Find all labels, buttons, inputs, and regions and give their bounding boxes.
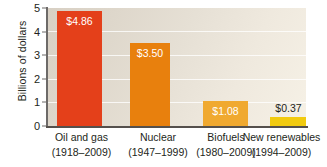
x-label-new-renewables: New renewables (1994–2009) xyxy=(236,130,327,160)
x-axis-line xyxy=(46,126,308,128)
x-label-name-new-renewables: New renewables xyxy=(243,131,321,143)
y-axis-tick-labels: 5 4 3 2 1 0 xyxy=(24,8,40,126)
bar-new-renewables[interactable]: $0.37 xyxy=(270,117,306,126)
bar-value-nuclear: $3.50 xyxy=(137,48,163,59)
x-label-name-oil-and-gas: Oil and gas xyxy=(55,131,108,143)
bar-oil-and-gas[interactable]: $4.86 xyxy=(57,11,102,126)
bar-value-new-renewables: $0.37 xyxy=(275,103,301,114)
bar-biofuels[interactable]: $1.08 xyxy=(203,101,248,126)
bar-value-biofuels: $1.08 xyxy=(212,106,238,117)
y-tick-label-2: 2 xyxy=(24,73,40,84)
y-tick-label-5: 5 xyxy=(24,3,40,14)
plot-area: $4.86 $3.50 $1.08 $0.37 xyxy=(48,8,306,126)
x-label-oil-and-gas: Oil and gas (1918–2009) xyxy=(36,130,127,160)
y-tick-label-3: 3 xyxy=(24,50,40,61)
x-label-period-new-renewables: (1994–2009) xyxy=(236,145,327,160)
bar-nuclear[interactable]: $3.50 xyxy=(130,43,170,126)
x-label-period-oil-and-gas: (1918–2009) xyxy=(36,145,127,160)
y-tick-label-4: 4 xyxy=(24,26,40,37)
bar-chart: Billions of dollars 5 4 3 2 1 0 $4.86 $3… xyxy=(0,0,327,167)
y-tick-label-1: 1 xyxy=(24,97,40,108)
x-axis-labels: Oil and gas (1918–2009) Nuclear (1947–19… xyxy=(0,130,327,167)
bar-value-oil-and-gas: $4.86 xyxy=(66,16,92,27)
x-label-name-nuclear: Nuclear xyxy=(140,131,176,143)
